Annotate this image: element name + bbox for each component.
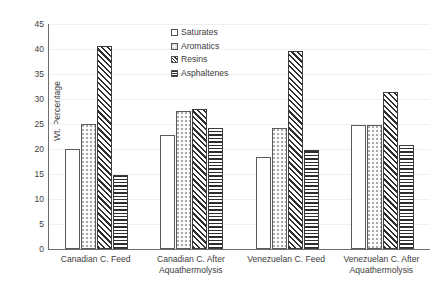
bar[interactable] xyxy=(272,128,287,249)
legend-label: Asphaltenes xyxy=(181,69,228,78)
legend-item[interactable]: Aromatics xyxy=(171,40,276,54)
y-axis-tick-label: 30 xyxy=(20,95,44,104)
x-axis-category-label-line: Venezuelan C. Feed xyxy=(240,254,333,265)
y-axis-tick-labels: 051015202530354045 xyxy=(20,0,44,290)
x-axis-category-label: Venezuelan C. AfterAquathermolysis xyxy=(334,254,429,276)
legend-swatch-icon xyxy=(171,29,178,36)
bar[interactable] xyxy=(256,157,271,249)
bar[interactable] xyxy=(367,125,382,249)
x-axis-category-label: Venezuelan C. Feed xyxy=(239,254,334,276)
x-axis-category-labels: Canadian C. FeedCanadian C. AfterAquathe… xyxy=(48,254,429,276)
bar-group xyxy=(49,24,144,249)
legend-label: Saturates xyxy=(181,28,218,37)
x-axis-category-label-line: Aquathermolysis xyxy=(144,265,237,276)
y-axis-tick-label: 35 xyxy=(20,70,44,79)
x-axis-category-label-line: Canadian C. After xyxy=(144,254,237,265)
legend-item[interactable]: Asphaltenes xyxy=(171,67,276,81)
bar[interactable] xyxy=(81,124,96,249)
y-axis-tick-label: 25 xyxy=(20,120,44,129)
y-axis-tick-label: 10 xyxy=(20,195,44,204)
bar[interactable] xyxy=(97,46,112,249)
x-axis-category-label: Canadian C. AfterAquathermolysis xyxy=(143,254,238,276)
y-axis-tick-label: 20 xyxy=(20,145,44,154)
bar-chart: Wt. Percentage 051015202530354045 Satura… xyxy=(0,0,437,290)
y-axis-tick-label: 5 xyxy=(20,220,44,229)
legend-swatch-icon xyxy=(171,70,178,77)
legend-item[interactable]: Resins xyxy=(171,53,276,67)
legend-swatch-icon xyxy=(171,43,178,50)
x-axis-category-label: Canadian C. Feed xyxy=(48,254,143,276)
x-axis-category-label-line: Venezuelan C. After xyxy=(335,254,428,265)
y-axis-tick-label: 45 xyxy=(20,20,44,29)
bar[interactable] xyxy=(113,175,128,249)
y-axis-tick-label: 40 xyxy=(20,45,44,54)
x-axis-category-label-line: Aquathermolysis xyxy=(335,265,428,276)
bar[interactable] xyxy=(160,135,175,249)
legend-swatch-icon xyxy=(171,56,178,63)
legend-label: Aromatics xyxy=(181,42,219,51)
bar[interactable] xyxy=(288,51,303,250)
bar-group xyxy=(335,24,430,249)
bar[interactable] xyxy=(192,109,207,249)
bar[interactable] xyxy=(383,92,398,249)
legend-item[interactable]: Saturates xyxy=(171,26,276,40)
bar[interactable] xyxy=(65,149,80,249)
legend: SaturatesAromaticsResinsAsphaltenes xyxy=(171,26,276,80)
bar[interactable] xyxy=(176,111,191,249)
bar[interactable] xyxy=(304,150,319,249)
x-axis-category-label-line: Canadian C. Feed xyxy=(49,254,142,265)
bar[interactable] xyxy=(399,145,414,249)
y-axis-tick-label: 0 xyxy=(20,245,44,254)
y-axis-tick-label: 15 xyxy=(20,170,44,179)
legend-label: Resins xyxy=(181,55,207,64)
bar[interactable] xyxy=(208,128,223,249)
bar[interactable] xyxy=(351,125,366,249)
